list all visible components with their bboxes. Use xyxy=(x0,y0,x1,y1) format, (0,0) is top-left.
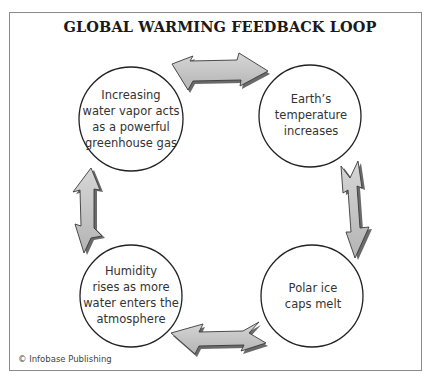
label-line: atmosphere xyxy=(76,311,186,327)
label-line: water vapor acts xyxy=(76,103,186,119)
copyright-credit: © Infobase Publishing xyxy=(18,354,112,364)
arrow-bottom-icon xyxy=(171,322,268,357)
feedback-loop-diagram xyxy=(0,0,440,388)
label-line: water enters the xyxy=(76,295,186,311)
label-line: greenhouse gas xyxy=(76,135,186,151)
node-label-water-vapor: Increasing water vapor acts as a powerfu… xyxy=(76,87,186,151)
label-line: temperature xyxy=(256,107,366,123)
label-line: Increasing xyxy=(76,87,186,103)
label-line: Polar ice xyxy=(258,280,368,296)
label-line: as a powerful xyxy=(76,119,186,135)
node-label-humidity: Humidity rises as more water enters the … xyxy=(76,263,186,327)
label-line: caps melt xyxy=(258,296,368,312)
node-label-temperature: Earth’s temperature increases xyxy=(256,91,366,139)
node-label-ice-caps: Polar ice caps melt xyxy=(258,280,368,312)
arrow-top-icon xyxy=(172,53,270,93)
label-line: Humidity xyxy=(76,263,186,279)
arrow-left-icon xyxy=(73,168,105,255)
label-line: rises as more xyxy=(76,279,186,295)
arrow-right-icon xyxy=(341,161,372,260)
label-line: Earth’s xyxy=(256,91,366,107)
label-line: increases xyxy=(256,123,366,139)
